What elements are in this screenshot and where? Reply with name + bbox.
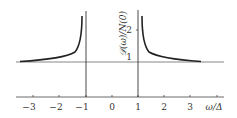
- right-branch-curve: [142, 16, 201, 62]
- x-axis-label: ω/Δ: [206, 102, 223, 112]
- x-tick-label: 0: [109, 102, 115, 112]
- x-tick-label: 2: [161, 102, 167, 112]
- x-tick-label: −3: [22, 102, 36, 112]
- left-branch-curve: [20, 16, 82, 62]
- x-tick-label: 3: [187, 102, 193, 112]
- x-tick-label: −1: [75, 102, 88, 112]
- dos-chart: −3 −2 −1 0 1 2 3 ω/Δ 2 1 𝒟(ω)/N(0): [0, 0, 237, 118]
- x-tick-label: −2: [49, 102, 62, 112]
- x-tick-label: 1: [135, 102, 141, 112]
- y-axis-label: 𝒟(ω)/N(0): [118, 10, 128, 56]
